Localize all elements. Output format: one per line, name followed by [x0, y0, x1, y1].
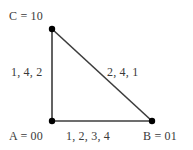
- node-label-b: B = 01: [143, 130, 177, 142]
- node-dot-c: [49, 26, 55, 32]
- edge-label-ac: 1, 4, 2: [11, 66, 42, 78]
- node-dot-a: [49, 118, 55, 124]
- node-label-a: A = 00: [9, 130, 43, 142]
- edge-label-ab: 1, 2, 3, 4: [66, 130, 110, 142]
- node-dot-b: [149, 118, 155, 124]
- edge-label-cb: 2, 4, 1: [107, 66, 138, 78]
- node-label-c: C = 10: [9, 10, 43, 22]
- diagram-canvas: C = 10 A = 00 B = 01 1, 4, 2 2, 4, 1 1, …: [0, 0, 193, 150]
